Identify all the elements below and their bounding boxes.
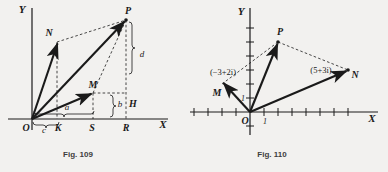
fig110-point-label-N: N (350, 69, 359, 80)
fig110-point-P-dot (276, 40, 280, 44)
fig109-point-label-H: H (128, 98, 138, 109)
fig109-dim-label-a: a (65, 102, 70, 112)
fig110-y-unit-label: 1 (241, 94, 245, 103)
fig109-dim-label-b: b (118, 99, 123, 109)
fig109-axis-mark-S: S (89, 122, 95, 133)
fig109-x-axis-label: X (158, 118, 167, 130)
fig109-point-label-P: P (125, 5, 132, 16)
fig109-origin-label: O (22, 122, 29, 133)
fig110-origin-label: O (241, 115, 248, 126)
fig110-point-label-P: P (277, 26, 284, 37)
fig110-caption: Fig. 110 (257, 150, 287, 159)
fig109-point-label-M: M (88, 79, 99, 90)
sheet-background (0, 0, 388, 172)
fig109-axis-mark-K: K (54, 122, 63, 133)
fig109-dim-label-d: d (140, 49, 145, 59)
fig110-point-N-dot (346, 68, 350, 72)
fig110-annotation-N: (5+3i) (310, 65, 331, 75)
fig109-point-label-N: N (44, 27, 53, 38)
figure-sheet: Y X N P M H O K S R c a (0, 0, 388, 172)
fig109-dim-label-c: c (42, 125, 46, 135)
fig110-x-unit-label: 1 (263, 117, 267, 126)
fig109-caption: Fig. 109 (63, 150, 93, 159)
fig109-point-P-dot (124, 18, 128, 22)
fig110-point-label-M: M (212, 87, 223, 98)
fig110-annotation-M: (−3+2i) (210, 67, 236, 77)
fig109-axis-mark-R: R (122, 122, 130, 133)
fig110-x-axis-label: X (367, 112, 376, 124)
